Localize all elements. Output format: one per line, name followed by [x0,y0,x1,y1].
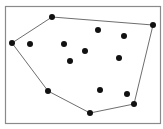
interior-point [121,33,127,39]
interior-point [27,41,33,47]
interior-point [61,41,67,47]
hull-vertex-point [150,22,156,28]
hull-vertex-point [9,40,15,46]
interior-point [82,48,88,54]
hull-vertex-point [87,110,93,116]
hull-vertex-point [45,88,51,94]
hull-vertex-point [49,14,55,20]
hull-vertex-point [131,101,137,107]
convex-hull-diagram [0,0,163,129]
interior-point [116,55,122,61]
interior-point [95,27,101,33]
interior-point [124,91,130,97]
interior-point [67,58,73,64]
interior-point [97,87,103,93]
